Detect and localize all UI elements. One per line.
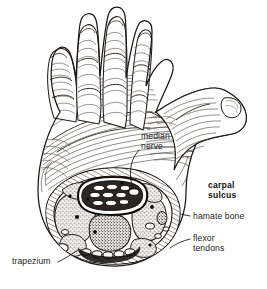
hamate-bone: [157, 212, 167, 225]
label-flexor-tendons: flexor tendons: [193, 233, 224, 253]
label-median-nerve-line2: nerve: [141, 141, 170, 151]
label-hamate-bone-line1: hamate bone: [193, 211, 244, 221]
ulnar-vessel: [75, 215, 79, 219]
label-trapezium-line1: trapezium: [12, 256, 51, 266]
carpal-tunnel-illustration: [0, 0, 267, 289]
thenar-tendon: [146, 223, 155, 229]
label-median-nerve: median nerve: [141, 131, 170, 151]
carpal-tunnel: [78, 177, 147, 215]
finger-middle: [77, 25, 101, 124]
label-flexor-tendons-line1: flexor: [193, 233, 224, 243]
label-carpal-sulcus: carpal sulcus: [208, 180, 236, 200]
label-median-nerve-line1: median: [141, 131, 170, 141]
median-nerve-section: [129, 189, 139, 196]
label-flexor-tendons-line2: tendons: [193, 243, 224, 253]
label-hamate-bone: hamate bone: [193, 211, 244, 221]
label-carpal-sulcus-line1: carpal: [208, 180, 236, 190]
label-carpal-sulcus-line2: sulcus: [208, 190, 236, 200]
radial-vessel: [150, 205, 154, 209]
label-trapezium: trapezium: [12, 256, 51, 266]
carpal-cross-section: [46, 168, 180, 264]
finger-ring: [103, 17, 127, 128]
